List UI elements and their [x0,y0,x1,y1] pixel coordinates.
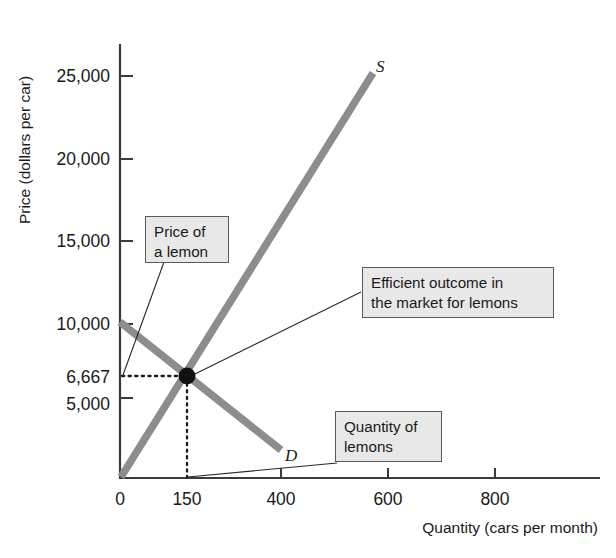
y-tick-label-5000: 5,000 [66,394,110,414]
y-tick-label-20000: 20,000 [56,149,110,169]
leader-line-price-of-lemon [123,262,164,375]
x-tick-label-800: 800 [480,489,509,509]
demand-curve-label: D [284,446,298,465]
y-axis-title: Price (dollars per car) [16,76,33,224]
callout-price-of-a-lemon: Price of a lemon [145,216,229,263]
x-axis-title: Quantity (cars per month) [422,519,598,536]
equilibrium-dot [179,368,196,385]
supply-curve-label: S [376,57,385,76]
callout-efficient-outcome: Efficient outcome in the market for lemo… [362,267,554,318]
x-tick-label-600: 600 [373,489,402,509]
x-tick-label-400: 400 [266,489,295,509]
leader-line-quantity-of-lemons [188,463,337,477]
demand-curve [120,322,281,450]
callout-quantity-of-lemons: Quantity of lemons [335,411,442,462]
x-tick-label-0: 0 [115,489,125,509]
lemons-market-chart: 25,000 20,000 15,000 10,000 6,667 5,000 … [0,0,616,558]
x-tick-label-150: 150 [172,489,201,509]
leader-line-efficient-outcome [195,292,361,374]
y-tick-label-6667: 6,667 [66,367,110,387]
y-tick-label-10000: 10,000 [56,314,110,334]
y-tick-label-15000: 15,000 [56,231,110,251]
y-tick-label-25000: 25,000 [56,66,110,86]
